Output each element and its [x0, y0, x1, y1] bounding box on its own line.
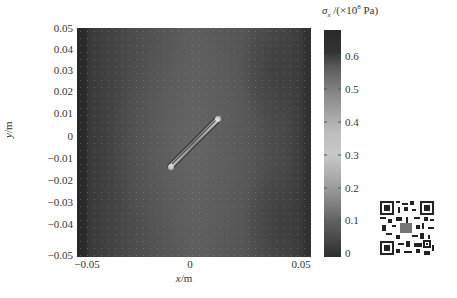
colorbar-gradient: [324, 30, 341, 257]
qr-code: [380, 201, 434, 255]
y-tick-label: 0.01: [54, 108, 73, 119]
y-tick-label: −0.04: [48, 219, 73, 230]
crack-tip-upper: [215, 116, 221, 122]
x-tick-label: 0.05: [291, 259, 310, 270]
y-tick-label: −0.02: [48, 175, 73, 186]
colorbar-tick-label: 0: [345, 248, 351, 259]
y-axis-label: y/m: [2, 121, 14, 138]
colorbar-tick-label: 0.2: [345, 183, 359, 194]
y-tick-label: −0.03: [48, 197, 73, 208]
colorbar-tick-label: 0.5: [345, 84, 359, 95]
colorbar-tick-label: 0.3: [345, 150, 359, 161]
heatmap-plot-area: [77, 28, 311, 257]
colorbar-tick-label: 0.1: [345, 215, 359, 226]
y-axis-unit: /m: [2, 121, 14, 133]
stress-field-heatmap: [77, 28, 311, 257]
colorbar-title: σx /(×108 Pa): [322, 3, 378, 19]
y-axis-var: y: [2, 133, 14, 138]
y-tick-label: 0.04: [54, 44, 73, 55]
y-tick-label: 0.02: [54, 86, 73, 97]
colorbar-unit-suffix: Pa): [361, 4, 378, 16]
y-tick-label: 0: [68, 131, 74, 142]
colorbar: [324, 30, 341, 257]
qr-code-icon: [380, 201, 434, 255]
x-axis-label: x/m: [176, 272, 193, 284]
x-tick-label: 0: [187, 259, 193, 270]
colorbar-tick-label: 0.4: [345, 117, 359, 128]
y-tick-label: −0.01: [48, 153, 73, 164]
x-axis-unit: /m: [181, 272, 193, 284]
colorbar-tick-label: 0.6: [345, 51, 359, 62]
x-tick-label: −0.05: [74, 259, 99, 270]
y-tick-label: 0.03: [54, 65, 73, 76]
crack-tip-lower: [168, 164, 174, 170]
y-tick-label: −0.05: [48, 250, 73, 261]
y-tick-label: 0.05: [54, 23, 73, 34]
colorbar-unit-prefix: /(×10: [331, 4, 358, 16]
